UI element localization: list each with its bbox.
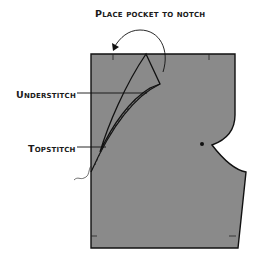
garment-panel (91, 54, 246, 248)
notch-dot-icon (200, 142, 204, 146)
topstitch-label: Topstitch (28, 143, 76, 154)
arrowhead-icon (112, 43, 119, 51)
understitch-label: Understitch (16, 89, 76, 100)
title-label: Place pocket to notch (95, 8, 205, 19)
thread-tail (74, 166, 91, 180)
